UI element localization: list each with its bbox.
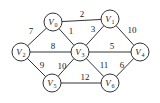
- edge-weight: 7: [29, 26, 34, 36]
- node-subscript: 5: [54, 83, 57, 89]
- node-V5: V5: [43, 74, 61, 92]
- edge-weight: 10: [58, 61, 68, 71]
- node-subscript: 1: [112, 19, 115, 25]
- edge-weight: 2: [80, 9, 85, 19]
- edge-weight: 1: [69, 26, 74, 36]
- node-V0: V0: [44, 13, 62, 31]
- edge-weight: 12: [81, 72, 90, 82]
- edge-weight: 11: [100, 60, 109, 70]
- node-V4: V4: [131, 43, 149, 61]
- node-V1: V1: [101, 10, 119, 28]
- node-V3: V3: [71, 43, 89, 61]
- node-V6: V6: [101, 74, 119, 92]
- edge-weight: 5: [110, 41, 115, 51]
- edge-weight: 3: [91, 24, 96, 34]
- edge-weight: 10: [128, 25, 138, 35]
- edge-weight: 8: [51, 41, 56, 51]
- node-V2: V2: [12, 43, 30, 61]
- node-subscript: 2: [23, 52, 26, 58]
- node-subscript: 6: [112, 83, 115, 89]
- node-subscript: 0: [55, 22, 58, 28]
- node-subscript: 3: [82, 52, 85, 58]
- node-subscript: 4: [142, 52, 145, 58]
- edge-weight: 6: [120, 60, 125, 70]
- edge-weight: 9: [40, 60, 45, 70]
- weighted-graph: 2713108591011612 V0V1V2V3V4V5V6: [0, 0, 160, 103]
